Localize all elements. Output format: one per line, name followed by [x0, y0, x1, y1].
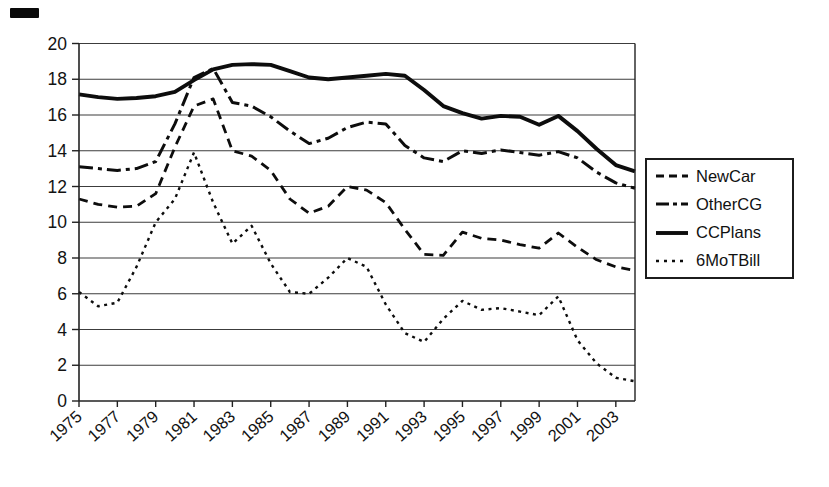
y-tick-label: 4: [57, 320, 67, 340]
x-tick-label: 1983: [199, 407, 238, 445]
x-tick-label: 1979: [122, 407, 161, 445]
legend-label: NewCar: [696, 167, 756, 186]
x-tick-label: 1995: [429, 407, 468, 445]
x-tick-label: 1987: [276, 407, 315, 445]
x-tick-label: 1989: [314, 407, 353, 445]
y-tick-label: 6: [57, 284, 67, 304]
legend-label: OtherCG: [696, 195, 762, 214]
legend-item-6MoTBill: 6MoTBill: [655, 247, 792, 275]
series-line-OtherCG: [79, 69, 635, 189]
y-tick-label: 2: [57, 355, 67, 375]
x-tick-label: 1993: [391, 407, 430, 445]
legend-label: 6MoTBill: [696, 251, 760, 270]
chart-legend: NewCarOtherCGCCPlans6MoTBill: [645, 158, 794, 279]
x-tick-label: 1981: [161, 407, 200, 445]
y-tick-label: 16: [48, 105, 67, 125]
legend-label: CCPlans: [696, 223, 761, 242]
y-tick-label: 20: [48, 34, 68, 54]
y-tick-label: 0: [57, 391, 67, 411]
x-tick-label: 1997: [467, 407, 506, 445]
legend-line-sample-NewCar: [655, 169, 689, 183]
y-tick-label: 18: [48, 69, 67, 89]
y-tick-label: 12: [48, 177, 67, 197]
x-tick-label: 2003: [583, 407, 622, 445]
x-tick-label: 1985: [237, 407, 276, 445]
x-tick-label: 1975: [46, 407, 85, 445]
x-tick-label: 1991: [352, 407, 391, 445]
y-tick-label: 8: [57, 248, 67, 268]
legend-item-OtherCG: OtherCG: [655, 190, 792, 218]
legend-item-CCPlans: CCPlans: [655, 219, 792, 247]
legend-line-sample-OtherCG: [655, 197, 689, 211]
legend-line-sample-6MoTBill: [655, 254, 689, 268]
legend-item-NewCar: NewCar: [655, 162, 792, 190]
y-tick-label: 14: [48, 141, 68, 161]
series-line-CCPlans: [79, 64, 635, 171]
x-tick-label: 2001: [544, 407, 583, 445]
scanned-chart-page: 0246810121416182019751977197919811983198…: [0, 0, 829, 487]
y-tick-label: 10: [48, 212, 68, 232]
x-tick-label: 1999: [506, 407, 545, 445]
legend-line-sample-CCPlans: [655, 226, 689, 240]
x-tick-label: 1977: [84, 407, 123, 445]
